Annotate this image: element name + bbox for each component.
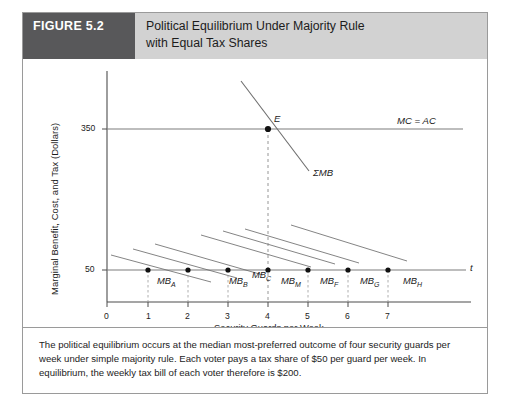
mb-curve-f	[223, 231, 335, 264]
x-tick-label-7: 7	[385, 311, 390, 321]
x-axis-ticks	[107, 302, 388, 307]
figure-title: Political Equilibrium Under Majority Rul…	[135, 13, 487, 59]
mc-ac-label: MC = AC	[397, 115, 436, 126]
x-tick-label-5: 5	[305, 311, 310, 321]
x-tick-label-3: 3	[225, 311, 230, 321]
figure-caption-text: The political equilibrium occurs at the …	[39, 338, 471, 381]
dot-q5	[305, 267, 310, 272]
figure-title-line-1: Political Equilibrium Under Majority Rul…	[146, 18, 487, 35]
dot-q7	[385, 267, 390, 272]
figure-header: FIGURE 5.2 Political Equilibrium Under M…	[23, 13, 487, 59]
mb-curve-h	[291, 225, 407, 261]
x-tick-label-4: 4	[265, 311, 270, 321]
figure-title-line-2: with Equal Tax Shares	[146, 35, 487, 52]
chart-plot-area: Marginal Benefit, Cost, and Tax (Dollars…	[23, 59, 487, 327]
mb-label-b: MBB	[229, 275, 248, 288]
equilibrium-label: E	[274, 113, 280, 124]
figure-container: FIGURE 5.2 Political Equilibrium Under M…	[22, 12, 488, 394]
mb-label-f: MBF	[320, 275, 338, 288]
sum-mb-curve	[241, 81, 309, 171]
y-tick-label-50: 50	[85, 264, 95, 274]
mb-label-g: MBG	[360, 275, 380, 288]
dot-q6	[345, 267, 350, 272]
x-tick-label-0: 0	[104, 311, 109, 321]
mb-label-c: MBC	[252, 269, 271, 282]
mb-label-h: MBH	[403, 275, 422, 288]
figure-number-label: FIGURE 5.2	[23, 13, 135, 59]
equilibrium-point	[265, 126, 271, 132]
y-axis-label: Marginal Benefit, Cost, and Tax (Dollars…	[49, 95, 60, 295]
mb-label-m: MBM	[281, 275, 301, 288]
mb-label-a: MBA	[157, 275, 176, 288]
mb-curve-g	[245, 229, 359, 263]
figure-caption: The political equilibrium occurs at the …	[23, 327, 487, 381]
tax-share-line-label: t	[470, 262, 473, 273]
x-tick-label-1: 1	[146, 311, 151, 321]
dot-q2	[185, 267, 190, 272]
x-tick-label-2: 2	[185, 311, 190, 321]
dot-q3	[225, 267, 230, 272]
sum-mb-label: ΣMB	[313, 167, 333, 178]
y-tick-label-350: 350	[81, 123, 95, 133]
dot-q1	[145, 267, 150, 272]
x-tick-label-6: 6	[345, 311, 350, 321]
